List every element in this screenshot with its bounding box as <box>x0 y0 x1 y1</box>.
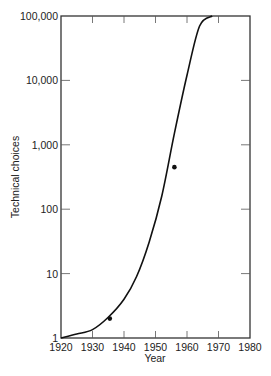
plot-frame <box>61 16 250 338</box>
curve <box>61 16 212 338</box>
y-tick-label: 10 <box>46 268 58 280</box>
plot-border <box>61 16 250 338</box>
growth-curve <box>61 16 212 338</box>
y-tick-label: 1 <box>52 332 58 344</box>
data-point <box>108 316 113 321</box>
y-axis-ticks: 1101001,00010,000100,000 <box>20 10 250 344</box>
x-axis-ticks: 1920193019401950196019701980 <box>49 16 262 353</box>
x-tick-label: 1980 <box>238 341 262 353</box>
x-axis-title: Year <box>144 352 166 364</box>
x-tick-label: 1960 <box>175 341 199 353</box>
y-tick-label: 100,000 <box>20 10 58 22</box>
y-tick-label: 100 <box>40 203 58 215</box>
y-axis-title: Technical choices <box>9 136 21 218</box>
x-tick-label: 1930 <box>81 341 105 353</box>
x-tick-label: 1940 <box>112 341 136 353</box>
y-tick-label: 10,000 <box>26 74 58 86</box>
data-point <box>172 165 177 170</box>
y-tick-label: 1,000 <box>32 139 58 151</box>
chart: 1920193019401950196019701980 1101001,000… <box>0 0 271 376</box>
data-points <box>108 165 177 321</box>
x-tick-label: 1970 <box>207 341 231 353</box>
